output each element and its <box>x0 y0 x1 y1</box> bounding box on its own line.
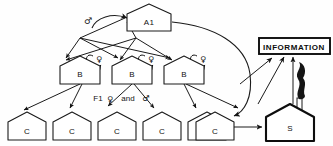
generation-female-icon: ♀ <box>107 95 113 104</box>
node-b1-label: B <box>77 70 83 79</box>
node-s[interactable]: S <box>266 104 314 141</box>
node-c6-label: C <box>212 127 218 136</box>
svg-text:♀: ♀ <box>200 55 206 64</box>
node-b1[interactable]: B <box>60 56 100 84</box>
node-c2[interactable]: C <box>53 112 91 140</box>
node-s-label: S <box>287 124 293 133</box>
symbol-female-b1: ♀ <box>96 55 102 64</box>
node-c3-label: C <box>114 127 120 136</box>
node-c2-label: C <box>69 127 75 136</box>
annotation-generation: F1 ♀ and ♂ <box>93 94 149 104</box>
generation-male-icon: ♂ <box>142 94 149 103</box>
symbol-female-b3: ♀ <box>200 55 206 64</box>
node-b2-label: B <box>129 70 135 79</box>
node-a1[interactable]: A1 <box>127 4 171 31</box>
symbol-male-top: ♂ <box>84 16 92 26</box>
svg-text:♀: ♀ <box>96 55 102 64</box>
generation-conjunction: and <box>121 94 134 103</box>
svg-text:♀: ♀ <box>148 55 154 64</box>
node-c3[interactable]: C <box>98 112 136 140</box>
information-label: INFORMATION <box>263 43 325 52</box>
node-a1-label: A1 <box>144 18 155 27</box>
generation-label: F1 <box>93 94 103 103</box>
node-information[interactable]: INFORMATION <box>259 38 330 54</box>
node-c1-label: C <box>24 127 30 136</box>
node-c4-label: C <box>159 127 165 136</box>
node-c1[interactable]: C <box>8 112 46 140</box>
edge-male-to-a1 <box>92 16 127 28</box>
node-b2[interactable]: B <box>112 56 152 84</box>
node-c4[interactable]: C <box>143 112 181 140</box>
node-b3-label: B <box>181 70 187 79</box>
breeding-scheme-diagram: A1 ♂ B B B ♀ ♀ ♀ F1 ♀ <box>0 0 333 146</box>
svg-text:♂: ♂ <box>84 16 92 26</box>
node-b3[interactable]: B <box>164 56 204 84</box>
diagram-canvas: A1 ♂ B B B ♀ ♀ ♀ F1 ♀ <box>0 0 333 146</box>
symbol-female-b2: ♀ <box>148 55 154 64</box>
